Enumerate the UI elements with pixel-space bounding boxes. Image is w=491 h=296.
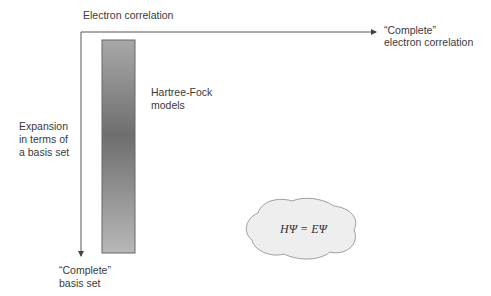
hartree-fock-bar	[102, 40, 135, 253]
y-axis-end-label-1: “Complete”	[59, 264, 111, 277]
hartree-fock-label-2: models	[151, 99, 185, 112]
hartree-fock-label-1: Hartree-Fock	[151, 86, 212, 99]
schrodinger-equation: HΨ = EΨ	[280, 222, 327, 237]
x-axis-label: Electron correlation	[83, 9, 173, 22]
y-axis-label-3: a basis set	[19, 146, 69, 159]
y-axis-label-1: Expansion	[19, 120, 68, 133]
y-axis-label-2: in terms of	[19, 133, 68, 146]
y-axis-end-label-2: basis set	[59, 277, 100, 290]
x-axis-end-label-2: electron correlation	[384, 36, 473, 49]
